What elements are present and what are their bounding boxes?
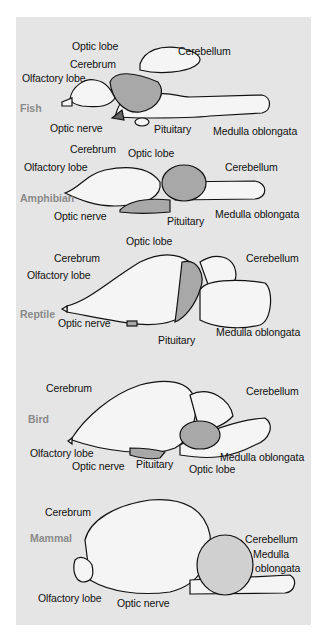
mammal-label-medulla: Medulla: [253, 548, 289, 560]
mammal-label-olfactory-lobe: Olfactory lobe: [38, 592, 101, 604]
reptile-label-olfactory-lobe: Olfactory lobe: [27, 269, 90, 281]
reptile-label-medulla: Medulla oblongata: [216, 326, 300, 338]
mammal-label-cerebellum: Cerebellum: [245, 533, 298, 545]
amphibian-label-optic-lobe: Optic lobe: [128, 147, 174, 159]
bird-label-olfactory-lobe: Olfactory lobe: [30, 447, 93, 459]
fish-label-optic-nerve: Optic nerve: [50, 122, 103, 134]
reptile-label-optic-lobe: Optic lobe: [126, 235, 172, 247]
fish-label-olfactory-lobe: Olfactory lobe: [22, 72, 85, 84]
fish-label-cerebrum: Cerebrum: [70, 58, 116, 70]
reptile-label-optic-nerve: Optic nerve: [58, 317, 111, 329]
mammal-label-cerebrum: Cerebrum: [45, 506, 91, 518]
amphibian-label-optic-nerve: Optic nerve: [54, 210, 107, 222]
amphibian-label-medulla: Medulla oblongata: [215, 208, 299, 220]
reptile-label-pituitary: Pituitary: [158, 334, 195, 346]
mammal-label-optic-nerve: Optic nerve: [117, 597, 170, 609]
amphibian-label-cerebellum: Cerebellum: [225, 161, 278, 173]
amphibian-label-pituitary: Pituitary: [167, 215, 204, 227]
species-label-reptile: Reptile: [20, 308, 55, 320]
bird-brain: [68, 381, 270, 458]
bird-label-cerebellum: Cerebellum: [246, 385, 299, 397]
fish-label-medulla: Medulla oblongata: [213, 125, 297, 137]
bird-label-cerebrum: Cerebrum: [46, 382, 92, 394]
bird-label-medulla: Medulla oblongata: [220, 451, 304, 463]
species-label-amphibian: Amphibian: [20, 192, 74, 204]
reptile-label-cerebrum: Cerebrum: [54, 252, 100, 264]
bird-label-optic-nerve: Optic nerve: [72, 460, 125, 472]
bird-label-pituitary: Pituitary: [136, 458, 173, 470]
species-label-mammal: Mammal: [30, 532, 72, 544]
amphibian-label-cerebrum: Cerebrum: [70, 143, 116, 155]
bird-label-optic-lobe: Optic lobe: [189, 463, 235, 475]
species-label-fish: Fish: [20, 102, 42, 114]
reptile-label-cerebellum: Cerebellum: [246, 252, 299, 264]
species-label-bird: Bird: [28, 413, 49, 425]
mammal-label-oblongata: oblongata: [255, 562, 300, 574]
fish-label-optic-lobe: Optic lobe: [72, 40, 118, 52]
fish-label-cerebellum: Cerebellum: [178, 45, 231, 57]
fish-label-pituitary: Pituitary: [154, 123, 191, 135]
amphibian-label-olfactory-lobe: Olfactory lobe: [24, 161, 87, 173]
